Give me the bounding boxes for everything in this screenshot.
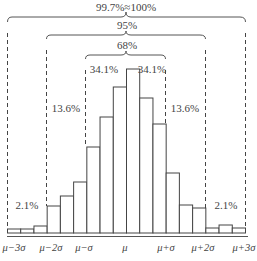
tick-mu-minus-sigma: μ−σ: [75, 242, 93, 253]
histogram-bar: [140, 98, 153, 233]
tick-mu-plus-sigma: μ+σ: [157, 242, 175, 253]
label-right-34-1: 34.1%: [138, 64, 166, 75]
label-99-7-percent: 99.7%≈100%: [96, 2, 156, 13]
histogram-bar: [21, 229, 34, 233]
label-95-percent: 95%: [117, 20, 137, 31]
histogram-bar: [179, 205, 192, 233]
histogram-bar: [219, 225, 232, 233]
histogram-bar: [166, 173, 179, 233]
label-right-2-1: 2.1%: [215, 200, 238, 211]
histogram-bar: [206, 228, 219, 233]
histogram-bar: [60, 196, 73, 233]
histogram-bar: [153, 124, 166, 233]
tick-mu-plus-2sigma: μ+2σ: [192, 242, 215, 253]
label-left-34-1: 34.1%: [90, 64, 118, 75]
histogram-bar: [100, 117, 113, 233]
histogram-bar: [113, 87, 126, 233]
histogram-bar: [87, 147, 100, 233]
label-left-13-6: 13.6%: [52, 103, 80, 114]
histogram-bar: [74, 182, 87, 233]
label-right-13-6: 13.6%: [171, 103, 199, 114]
histogram-bars: [8, 69, 246, 233]
histogram-bar: [34, 226, 47, 233]
histogram-bar: [127, 69, 140, 233]
histogram-bar: [193, 208, 206, 233]
tick-mu: μ: [122, 242, 127, 253]
tick-mu-plus-3sigma: μ+3σ: [233, 242, 256, 253]
tick-mu-minus-2sigma: μ−2σ: [40, 242, 63, 253]
histogram-bar: [47, 206, 60, 233]
tick-mu-minus-3sigma: μ−3σ: [3, 242, 26, 253]
label-left-2-1: 2.1%: [16, 200, 39, 211]
histogram-bar: [8, 229, 21, 233]
histogram-bar: [232, 228, 245, 233]
label-68-percent: 68%: [117, 40, 137, 51]
